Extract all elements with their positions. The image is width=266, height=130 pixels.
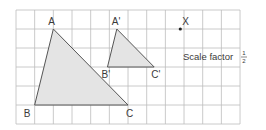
scale-factor-denominator: 2: [242, 58, 246, 64]
vertex-label-a-prime: A': [112, 16, 121, 27]
enlargement-diagram: ABCA'B'C'X Scale factor 1 2: [0, 0, 266, 130]
scale-factor-label: Scale factor: [183, 51, 233, 62]
vertex-label-c-prime: C': [151, 69, 160, 80]
centre-of-enlargement-point: [179, 27, 182, 30]
scale-factor-numerator: 1: [242, 50, 246, 56]
vertex-label-b: B: [24, 108, 31, 119]
vertex-label-b-prime: B': [101, 69, 110, 80]
vertex-label-a: A: [48, 16, 55, 27]
centre-label-x: X: [182, 16, 189, 27]
vertex-label-c: C: [126, 108, 133, 119]
